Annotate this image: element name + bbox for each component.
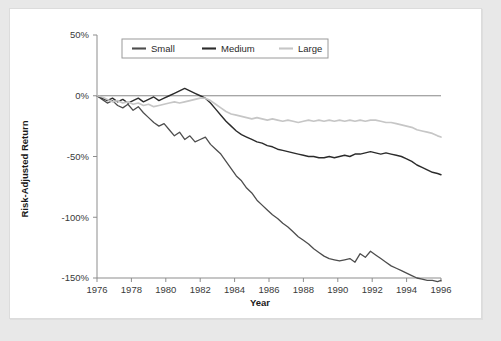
legend-label-medium[interactable]: Medium (221, 43, 255, 54)
series-group (97, 88, 441, 281)
x-tick-label: 1986 (258, 284, 279, 295)
x-tick-label: 1978 (121, 284, 142, 295)
y-tick-label: -100% (62, 212, 90, 223)
series-line-medium (97, 88, 441, 174)
y-tick-label: -150% (62, 272, 90, 283)
x-tick-label: 1980 (155, 284, 176, 295)
x-tick-label: 1990 (327, 284, 348, 295)
series-line-small (97, 96, 441, 282)
x-tick-label: 1988 (293, 284, 314, 295)
y-axis-title: Risk-Adjusted Return (19, 120, 30, 217)
series-line-large (97, 96, 441, 137)
x-axis: 1976197819801982198419861988199019921994… (86, 278, 451, 295)
legend-label-large[interactable]: Large (298, 43, 322, 54)
y-tick-label: -50% (67, 151, 90, 162)
risk-adjusted-return-line-chart: 50%0%-50%-100%-150% 19761978198019821984… (10, 9, 481, 318)
x-tick-label: 1982 (190, 284, 211, 295)
chart-legend[interactable]: SmallMediumLarge (122, 39, 328, 58)
chart-container: 50%0%-50%-100%-150% 19761978198019821984… (10, 9, 481, 318)
x-axis-title: Year (250, 297, 270, 308)
y-tick-label: 50% (70, 29, 90, 40)
legend-label-small[interactable]: Small (151, 43, 175, 54)
y-tick-label: 0% (75, 90, 89, 101)
x-tick-label: 1992 (362, 284, 383, 295)
x-tick-label: 1996 (430, 284, 451, 295)
figure-panel: 50%0%-50%-100%-150% 19761978198019821984… (9, 8, 482, 319)
x-tick-label: 1994 (396, 284, 417, 295)
x-tick-label: 1984 (224, 284, 245, 295)
x-tick-label: 1976 (86, 284, 107, 295)
y-axis: 50%0%-50%-100%-150% (62, 29, 97, 283)
